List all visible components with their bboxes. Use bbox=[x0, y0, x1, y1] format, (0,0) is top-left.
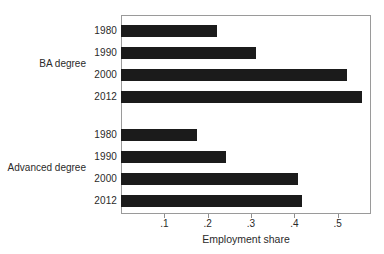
x-tick-label: .3 bbox=[236, 218, 266, 230]
x-tick-label: .2 bbox=[193, 218, 223, 230]
bar bbox=[121, 173, 298, 185]
x-tick-label: .4 bbox=[279, 218, 309, 230]
bars-layer bbox=[121, 15, 371, 214]
x-axis-title: Employment share bbox=[121, 233, 371, 246]
bar bbox=[121, 151, 226, 163]
bar bbox=[121, 47, 256, 59]
group-label: Advanced degree bbox=[0, 162, 86, 174]
group-labels-layer: BA degreeAdvanced degree bbox=[0, 15, 117, 214]
employment-share-bar-chart: 19801990200020121980199020002012 BA degr… bbox=[0, 0, 384, 254]
bar bbox=[121, 129, 197, 141]
x-tick-label: .5 bbox=[323, 218, 353, 230]
bar bbox=[121, 25, 217, 37]
bar bbox=[121, 195, 302, 207]
bar bbox=[121, 69, 347, 81]
bar bbox=[121, 91, 362, 103]
x-tick-label: .1 bbox=[149, 218, 179, 230]
group-label: BA degree bbox=[0, 58, 86, 70]
